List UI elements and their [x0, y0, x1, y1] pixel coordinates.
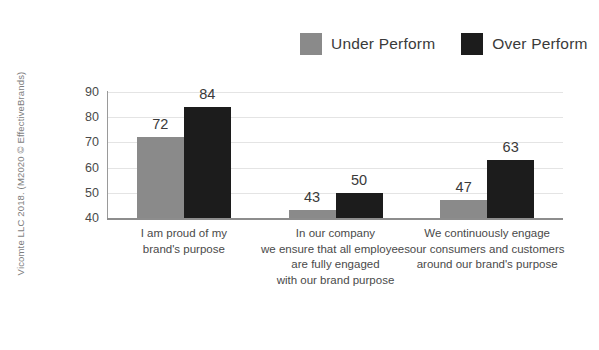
legend-swatch-square — [461, 33, 483, 55]
legend-item-label: Under Perform — [331, 35, 435, 53]
category-label-line: with our brand purpose — [246, 273, 426, 289]
chart-legend: Under PerformOver Perform — [300, 33, 588, 55]
y-axis-tick-label: 90 — [85, 85, 99, 99]
bar-value-label: 63 — [503, 139, 519, 155]
bar-value-label: 43 — [304, 189, 320, 205]
y-axis-tick-label: 60 — [85, 161, 99, 175]
attribution-text: Vicomte LLC 2018. (M2020 © EffectiveBran… — [0, 0, 30, 350]
bar-value-label: 84 — [199, 86, 215, 102]
category-axis-labels: I am proud of mybrand's purposeIn our co… — [108, 226, 563, 306]
category-label-line: around our brand's purpose — [397, 257, 577, 273]
bar-2-1[interactable]: 43 — [289, 210, 336, 218]
legend-item-1[interactable]: Under Perform — [300, 33, 435, 55]
bar-value-label: 50 — [351, 172, 367, 188]
bar-1-1[interactable]: 72 — [137, 137, 184, 218]
category-label-line: our consumers and customers — [397, 242, 577, 258]
bar-value-label: 47 — [456, 179, 472, 195]
legend-swatch-square — [300, 33, 322, 55]
bar-3-2[interactable]: 63 — [487, 160, 534, 218]
bar-3-1[interactable]: 47 — [440, 200, 487, 218]
gridline-90 — [108, 92, 563, 93]
y-axis-tick-label: 50 — [85, 186, 99, 200]
attribution-label: Vicomte LLC 2018. (M2020 © EffectiveBran… — [15, 49, 26, 299]
y-axis-tick-label: 40 — [85, 211, 99, 225]
y-axis-tick-label: 80 — [85, 110, 99, 124]
bar-value-label: 72 — [152, 116, 168, 132]
gridline-80 — [108, 117, 563, 118]
category-label-line: We continuously engage — [397, 226, 577, 242]
category-label-3: We continuously engageour consumers and … — [397, 226, 577, 273]
legend-item-2[interactable]: Over Perform — [461, 33, 587, 55]
bar-1-2[interactable]: 84 — [184, 107, 231, 218]
y-axis-tick-label: 70 — [85, 135, 99, 149]
legend-item-label: Over Perform — [492, 35, 587, 53]
bar-2-2[interactable]: 50 — [336, 193, 383, 218]
plot-area: 405060708090728443504763 — [108, 92, 563, 218]
x-axis-baseline — [107, 218, 563, 220]
